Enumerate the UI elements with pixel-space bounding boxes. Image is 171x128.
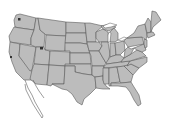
state-maine[interactable] xyxy=(151,11,161,32)
baja-california xyxy=(25,80,44,118)
state-massachusetts-ct-ri[interactable] xyxy=(147,32,155,38)
state-arkansas[interactable] xyxy=(92,66,104,77)
state-wyoming[interactable] xyxy=(45,35,66,51)
states xyxy=(9,11,161,106)
marker-washington[interactable] xyxy=(18,18,21,21)
state-new-jersey[interactable] xyxy=(144,39,147,48)
state-new-york[interactable] xyxy=(127,24,147,40)
state-south-dakota[interactable] xyxy=(65,33,87,44)
us-map xyxy=(0,0,171,128)
marker-utah[interactable] xyxy=(40,47,43,50)
marker-california[interactable] xyxy=(10,56,12,58)
state-arizona[interactable] xyxy=(30,64,49,85)
state-nebraska[interactable] xyxy=(65,43,90,53)
state-new-mexico[interactable] xyxy=(47,65,65,86)
state-kansas[interactable] xyxy=(70,53,91,64)
state-wisconsin[interactable] xyxy=(96,29,109,42)
state-ohio[interactable] xyxy=(115,41,125,55)
state-mississippi[interactable] xyxy=(103,68,109,84)
state-north-dakota[interactable] xyxy=(66,22,86,33)
state-florida[interactable] xyxy=(111,82,141,106)
